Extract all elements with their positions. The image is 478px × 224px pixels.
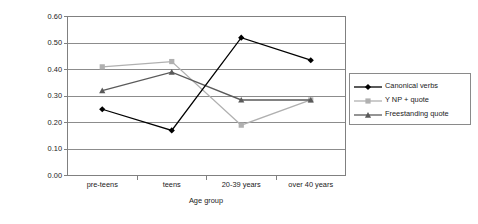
- legend-marker-triangle-icon: [353, 107, 383, 119]
- data-point-marker: [99, 106, 105, 112]
- data-point-marker: [239, 123, 244, 128]
- legend-label: Y NP + quote: [383, 95, 429, 104]
- legend-item: Y NP + quote: [353, 92, 466, 106]
- legend-item: Canonical verbs: [353, 78, 466, 92]
- data-point-marker: [308, 57, 314, 63]
- data-series-line: [102, 62, 311, 126]
- chart-legend: Canonical verbsY NP + quoteFreestanding …: [349, 73, 471, 125]
- data-point-marker: [100, 64, 105, 69]
- legend-item: Freestanding quote: [353, 106, 466, 120]
- data-point-marker: [169, 59, 174, 64]
- legend-label: Freestanding quote: [383, 109, 449, 118]
- data-point-marker: [365, 84, 371, 90]
- data-series-line: [102, 38, 311, 131]
- legend-label: Canonical verbs: [383, 81, 438, 90]
- data-point-marker: [365, 98, 370, 103]
- legend-marker-square-icon: [353, 93, 383, 105]
- legend-marker-diamond-icon: [353, 79, 383, 91]
- chart-figure: Probability weighting 0.000.100.200.300.…: [0, 0, 478, 224]
